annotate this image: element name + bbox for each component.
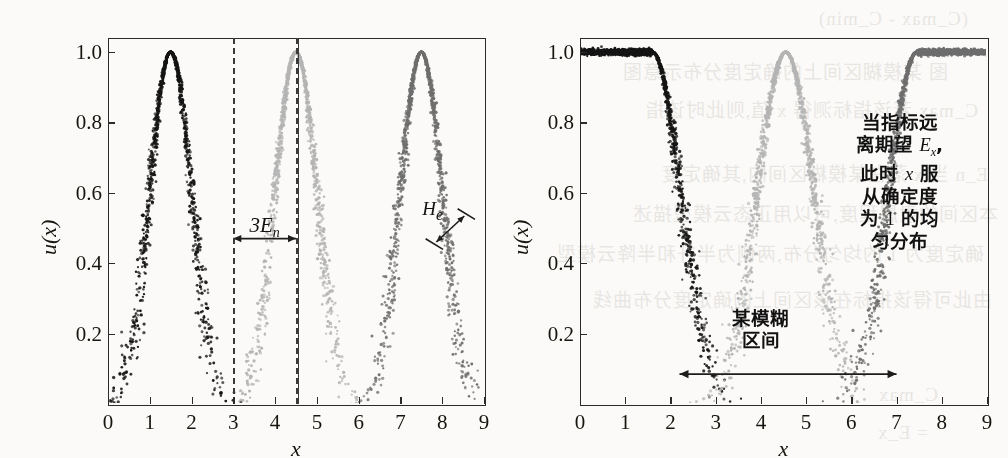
y-tick-label-right: 0.2 xyxy=(526,321,574,346)
x-tick-label-left: 8 xyxy=(437,410,448,435)
x-tick-label-right: 9 xyxy=(982,410,993,435)
figure-panel-left: 3En He x u(x) 01234567890.20.40.60.81.0 xyxy=(0,0,504,458)
he-text: H xyxy=(422,198,436,219)
annotation-uniform-certainty-note: 当指标远 离期望 Ex, 此时 x 服 从确定度 为 1 的均 匀分布 xyxy=(839,112,961,254)
x-tick-label-right: 4 xyxy=(756,410,767,435)
he-subscript: e xyxy=(436,206,443,223)
y-tick-left xyxy=(108,193,115,194)
y-tick-left xyxy=(108,52,115,53)
x-tick-right xyxy=(761,397,762,404)
x-tick-left xyxy=(233,397,234,404)
y-tick-label-left: 0.4 xyxy=(54,251,102,276)
y-tick-right xyxy=(580,263,587,264)
x-tick-label-left: 2 xyxy=(186,410,197,435)
x-tick-label-right: 0 xyxy=(575,410,586,435)
x-tick-right xyxy=(580,397,581,404)
x-tick-right xyxy=(716,397,717,404)
y-axis-title-left: u(x) xyxy=(36,220,62,255)
y-tick-label-right: 0.8 xyxy=(526,110,574,135)
x-tick-label-left: 0 xyxy=(103,410,114,435)
y-tick-label-left: 0.6 xyxy=(54,180,102,205)
x-tick-label-left: 9 xyxy=(479,410,490,435)
y-tick-label-right: 1.0 xyxy=(526,40,574,65)
x-tick-label-right: 5 xyxy=(801,410,812,435)
figure-panel-right: 当指标远 离期望 Ex, 此时 x 服 从确定度 为 1 的均 匀分布 某模糊 … xyxy=(504,0,1008,458)
x-tick-left xyxy=(484,397,485,404)
annotation-three-en-label: 3En xyxy=(249,213,279,241)
x-tick-label-left: 4 xyxy=(270,410,281,435)
x-tick-left xyxy=(192,397,193,404)
x-tick-right xyxy=(625,397,626,404)
fuzzy-line: 某模糊 xyxy=(707,308,815,330)
x-tick-label-right: 7 xyxy=(891,410,902,435)
x-tick-left xyxy=(317,397,318,404)
y-tick-label-left: 1.0 xyxy=(54,40,102,65)
y-tick-left xyxy=(108,263,115,264)
x-tick-left xyxy=(108,397,109,404)
x-tick-left xyxy=(275,397,276,404)
guide-dashed-line-x3 xyxy=(233,38,235,404)
note-line: 从确定度 xyxy=(839,186,961,209)
note-line: 匀分布 xyxy=(839,231,961,254)
y-tick-left xyxy=(108,334,115,335)
x-tick-label-right: 6 xyxy=(846,410,857,435)
x-tick-label-left: 5 xyxy=(312,410,323,435)
y-tick-label-right: 0.6 xyxy=(526,180,574,205)
note-line: 此时 x 服 xyxy=(839,163,961,186)
y-axis-title-right: u(x) xyxy=(508,220,534,255)
x-tick-right xyxy=(670,397,671,404)
y-tick-label-left: 0.2 xyxy=(54,321,102,346)
note-line: 离期望 Ex, xyxy=(839,134,961,163)
y-tick-left xyxy=(108,122,115,123)
x-tick-left xyxy=(150,397,151,404)
x-tick-label-right: 2 xyxy=(665,410,676,435)
fuzzy-line: 区间 xyxy=(707,330,815,352)
x-tick-left xyxy=(442,397,443,404)
x-tick-label-left: 7 xyxy=(395,410,406,435)
x-tick-label-left: 1 xyxy=(145,410,156,435)
guide-solid-line-x4-5 xyxy=(298,38,299,404)
x-tick-label-left: 6 xyxy=(353,410,364,435)
x-tick-label-right: 1 xyxy=(620,410,631,435)
x-axis-title-left: x xyxy=(291,436,301,458)
y-tick-right xyxy=(580,334,587,335)
three-en-subscript: n xyxy=(273,225,280,240)
x-tick-label-left: 3 xyxy=(228,410,239,435)
x-tick-left xyxy=(400,397,401,404)
x-tick-right xyxy=(987,397,988,404)
y-tick-label-left: 0.8 xyxy=(54,110,102,135)
x-tick-right xyxy=(851,397,852,404)
three-en-text: 3E xyxy=(249,213,272,237)
x-tick-right xyxy=(942,397,943,404)
annotation-fuzzy-interval-label: 某模糊 区间 xyxy=(707,308,815,352)
y-tick-right xyxy=(580,193,587,194)
x-tick-label-right: 3 xyxy=(710,410,721,435)
x-tick-left xyxy=(359,397,360,404)
x-tick-right xyxy=(897,397,898,404)
note-line: 为 1 的均 xyxy=(839,208,961,231)
x-tick-label-right: 8 xyxy=(937,410,948,435)
y-tick-right xyxy=(580,52,587,53)
annotation-he-label: He xyxy=(422,198,443,224)
x-tick-right xyxy=(806,397,807,404)
y-tick-right xyxy=(580,122,587,123)
note-line: 当指标远 xyxy=(839,112,961,135)
y-tick-label-right: 0.4 xyxy=(526,251,574,276)
x-axis-title-right: x xyxy=(779,436,789,458)
